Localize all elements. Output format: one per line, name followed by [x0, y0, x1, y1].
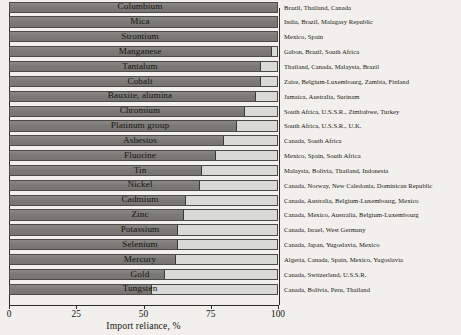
source-countries-label: Zaire, Belgium-Luxembourg, Zambia, Finla… — [284, 75, 460, 89]
bar-category-label: Tungsten — [9, 282, 271, 296]
bar-category-label: Chromium — [9, 104, 271, 118]
table-row: ColumbiumBrazil, Thailand, Canada — [0, 0, 461, 15]
bar-rows-container: ColumbiumBrazil, Thailand, CanadaMicaInd… — [0, 0, 461, 297]
table-row: GoldCanada, Switzerland, U.S.S.R. — [0, 267, 461, 282]
table-row: TinMalaysia, Bolivia, Thailand, Indonesi… — [0, 163, 461, 178]
table-row: MercuryAlgeria, Canada, Spain, Mexico, Y… — [0, 252, 461, 267]
bar-category-label: Potassium — [9, 223, 271, 237]
source-countries-label: Brazil, Thailand, Canada — [284, 1, 460, 15]
bar-category-label: Platinum group — [9, 119, 271, 133]
x-tick-label: 75 — [206, 309, 215, 319]
source-countries-label: South Africa, U.S.S.R., Zimbabwe, Turkey — [284, 105, 460, 119]
bar-category-label: Columbium — [9, 0, 271, 14]
table-row: TungstenCanada, Bolivia, Peru, Thailand — [0, 282, 461, 297]
x-tick-label: 50 — [139, 309, 148, 319]
bar-category-label: Nickel — [9, 178, 271, 192]
bar-category-label: Strontium — [9, 30, 271, 44]
source-countries-label: Canada, South Africa — [284, 134, 460, 148]
table-row: SeleniumCanada, Japan, Yugoslavia, Mexic… — [0, 238, 461, 253]
source-countries-label: India, Brazil, Malagasy Republic — [284, 15, 460, 29]
table-row: ChromiumSouth Africa, U.S.S.R., Zimbabwe… — [0, 104, 461, 119]
source-countries-label: Canada, Switzerland, U.S.S.R. — [284, 268, 460, 282]
import-reliance-bar-chart: ColumbiumBrazil, Thailand, CanadaMicaInd… — [0, 0, 461, 335]
bar-category-label: Zinc — [9, 208, 271, 222]
source-countries-label: Canada, Israel, West Germany — [284, 223, 460, 237]
source-countries-label: Mexico, Spain, South Africa — [284, 149, 460, 163]
bar-category-label: Manganese — [9, 45, 271, 59]
table-row: StrontiumMexico, Spain — [0, 30, 461, 45]
x-tick-label: 100 — [271, 309, 285, 319]
bar-category-label: Cadmium — [9, 193, 271, 207]
table-row: CadmiumCanada, Australia, Belgium-Luxemb… — [0, 193, 461, 208]
bar-category-label: Tin — [9, 164, 271, 178]
table-row: FluorineMexico, Spain, South Africa — [0, 149, 461, 164]
source-countries-label: Canada, Australia, Belgium-Luxembourg, M… — [284, 194, 460, 208]
source-countries-label: Mexico, Spain — [284, 30, 460, 44]
bar-category-label: Selenium — [9, 238, 271, 252]
bar-category-label: Cobalt — [9, 75, 271, 89]
table-row: ZincCanada, Mexico, Australia, Belgium-L… — [0, 208, 461, 223]
x-tick-label: 25 — [72, 309, 81, 319]
source-countries-label: Canada, Bolivia, Peru, Thailand — [284, 283, 460, 297]
table-row: Platinum groupSouth Africa, U.S.S.R., U.… — [0, 119, 461, 134]
table-row: NickelCanada, Norway, New Caledonia, Dom… — [0, 178, 461, 193]
source-countries-label: Algeria, Canada, Spain, Mexico, Yugoslav… — [284, 253, 460, 267]
table-row: AsbestosCanada, South Africa — [0, 134, 461, 149]
table-row: ManganeseGabon, Brazil, South Africa — [0, 45, 461, 60]
source-countries-label: Jamaica, Australia, Surinam — [284, 90, 460, 104]
table-row: Bauxite, aluminaJamaica, Australia, Suri… — [0, 89, 461, 104]
bar-category-label: Fluorine — [9, 149, 271, 163]
bar-category-label: Tantalum — [9, 60, 271, 74]
source-countries-label: Thailand, Canada, Malaysia, Brazil — [284, 60, 460, 74]
source-countries-label: Malaysia, Bolivia, Thailand, Indonesia — [284, 164, 460, 178]
bar-category-label: Mica — [9, 15, 271, 29]
bar-category-label: Asbestos — [9, 134, 271, 148]
table-row: MicaIndia, Brazil, Malagasy Republic — [0, 15, 461, 30]
source-countries-label: Canada, Mexico, Australia, Belgium-Luxem… — [284, 208, 460, 222]
table-row: CobaltZaire, Belgium-Luxembourg, Zambia,… — [0, 74, 461, 89]
bar-category-label: Mercury — [9, 253, 271, 267]
source-countries-label: South Africa, U.S.S.R., U.K. — [284, 119, 460, 133]
source-countries-label: Canada, Japan, Yugoslavia, Mexico — [284, 238, 460, 252]
x-tick-label: 0 — [7, 309, 12, 319]
source-countries-label: Canada, Norway, New Caledonia, Dominican… — [284, 179, 460, 193]
bar-category-label: Gold — [9, 268, 271, 282]
table-row: TantalumThailand, Canada, Malaysia, Braz… — [0, 59, 461, 74]
source-countries-label: Gabon, Brazil, South Africa — [284, 45, 460, 59]
bar-category-label: Bauxite, alumina — [9, 89, 271, 103]
table-row: PotassiumCanada, Israel, West Germany — [0, 223, 461, 238]
x-axis-title: Import reliance, % — [9, 320, 278, 331]
